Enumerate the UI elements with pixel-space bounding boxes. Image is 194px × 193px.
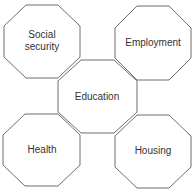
label-line: security: [25, 41, 59, 53]
node-label-education: Education: [75, 91, 119, 103]
node-label-housing: Housing: [135, 145, 172, 157]
label-line: Social: [25, 29, 59, 41]
node-label-social-security: Social security: [25, 29, 59, 53]
node-label-health: Health: [28, 144, 57, 156]
label-line: Health: [28, 144, 57, 156]
label-line: Housing: [135, 145, 172, 157]
label-line: Employment: [125, 37, 181, 49]
label-line: Education: [75, 91, 119, 103]
node-label-employment: Employment: [125, 37, 181, 49]
